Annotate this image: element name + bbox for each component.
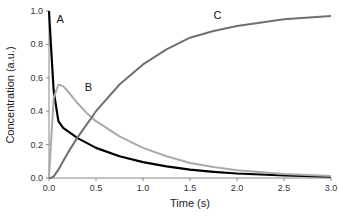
series-b-line [49, 85, 331, 179]
x-tick-label: 1.5 [184, 183, 197, 193]
curve-label-a: A [57, 13, 65, 25]
x-tick-label: 0.0 [43, 183, 56, 193]
series-group [49, 11, 331, 178]
x-tick-label: 2.5 [278, 183, 291, 193]
axes: 0.00.51.01.52.02.53.00.00.20.40.60.81.0 [30, 6, 337, 193]
curve-labels: ABC [57, 9, 222, 93]
curve-label-c: C [214, 9, 222, 21]
curve-label-b: B [85, 81, 92, 93]
y-tick-label: 1.0 [30, 6, 43, 16]
x-tick-label: 1.0 [137, 183, 150, 193]
y-axis-label: Concentration (a.u.) [4, 46, 16, 143]
x-tick-label: 0.5 [90, 183, 103, 193]
x-tick-label: 2.0 [231, 183, 244, 193]
y-tick-label: 0.6 [30, 73, 43, 83]
x-axis-label: Time (s) [170, 197, 210, 209]
series-a-line [49, 11, 331, 177]
y-tick-label: 0.4 [30, 106, 43, 116]
y-tick-label: 0.2 [30, 140, 43, 150]
line-chart: 0.00.51.01.52.02.53.00.00.20.40.60.81.0 … [0, 0, 341, 221]
series-c-line [49, 16, 331, 178]
y-tick-label: 0.8 [30, 39, 43, 49]
y-tick-label: 0.0 [30, 173, 43, 183]
x-tick-label: 3.0 [325, 183, 338, 193]
